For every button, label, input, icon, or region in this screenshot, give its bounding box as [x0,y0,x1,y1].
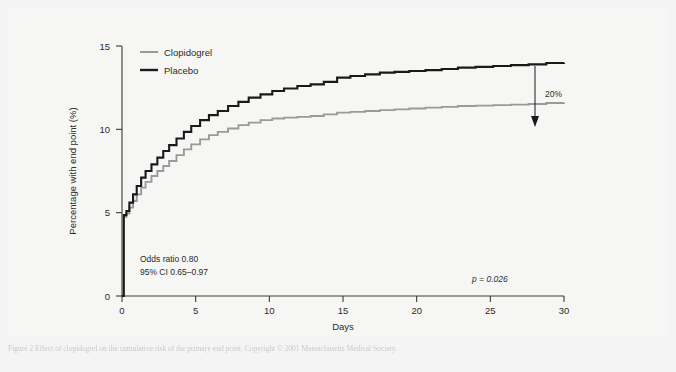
y-tick-label-10: 10 [99,124,110,135]
x-axis-ticks [122,296,564,302]
x-tick-label-0: 0 [119,305,124,316]
x-tick-label-25: 25 [485,305,496,316]
figure-container: 0 5 10 15 0 5 10 15 20 25 [0,0,676,372]
reduction-label: 20% [545,89,562,99]
survival-curve-chart: 0 5 10 15 0 5 10 15 20 25 [8,8,668,336]
chart-panel: 0 5 10 15 0 5 10 15 20 25 [8,8,668,336]
x-axis-title: Days [332,321,354,332]
y-axis-tick-labels: 0 5 10 15 [99,41,110,302]
y-tick-label-15: 15 [99,41,110,52]
x-tick-label-5: 5 [193,305,198,316]
y-tick-label-0: 0 [105,291,110,302]
y-axis-title: Percentage with end point (%) [67,107,78,234]
y-tick-label-5: 5 [105,207,110,218]
confidence-interval-annotation: 95% CI 0.65–0.97 [140,267,208,277]
legend-label-placebo: Placebo [164,65,198,76]
x-tick-label-10: 10 [264,305,275,316]
figure-caption: Figure 2 Effect of clopidogrel on the cu… [8,344,668,368]
x-tick-label-30: 30 [559,305,570,316]
x-tick-label-20: 20 [411,305,422,316]
odds-ratio-annotation: Odds ratio 0.80 [140,254,198,264]
p-value-annotation: p = 0.026 [471,274,508,284]
x-tick-label-15: 15 [338,305,349,316]
chart-legend: Clopidogrel Placebo [140,47,212,76]
x-axis-tick-labels: 0 5 10 15 20 25 30 [119,305,569,316]
reduction-arrow [531,66,539,127]
legend-label-clopidogrel: Clopidogrel [164,47,212,58]
y-axis-ticks [116,46,122,296]
